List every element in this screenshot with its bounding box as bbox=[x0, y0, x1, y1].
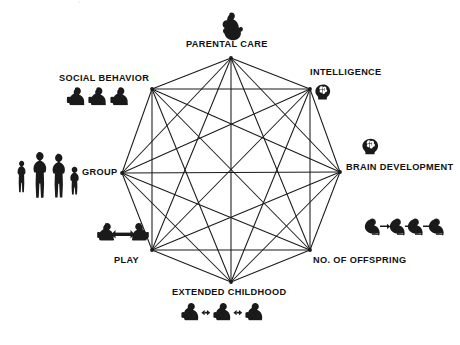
edge-brain-development--play bbox=[152, 172, 340, 250]
vertex-extended-childhood[interactable] bbox=[229, 280, 233, 284]
icon-head-with-brain-intelligence bbox=[315, 84, 331, 100]
icon-three-infants-with-arrows bbox=[364, 216, 452, 246]
edge-extended-childhood--social-behavior bbox=[152, 89, 231, 282]
edge-group bbox=[122, 58, 340, 282]
edge-parental-care--intelligence bbox=[231, 58, 310, 89]
edge-brain-development--group bbox=[122, 172, 340, 173]
vertex-intelligence[interactable] bbox=[308, 87, 312, 91]
icon-three-children-with-arrows bbox=[181, 302, 281, 334]
vertex-social-behavior[interactable] bbox=[150, 87, 154, 91]
node-label-extended-childhood: EXTENDED CHILDHOOD bbox=[172, 288, 287, 297]
edge-brain-development--no-of-offspring bbox=[310, 172, 340, 250]
edge-intelligence--extended-childhood bbox=[231, 89, 310, 282]
node-label-parental-care: PARENTAL CARE bbox=[186, 40, 268, 49]
icon-head-with-brain-development bbox=[362, 138, 379, 155]
diagram-canvas: | --- bbox=[0, 0, 460, 345]
edge-brain-development--extended-childhood bbox=[231, 172, 340, 282]
icon-two-children-playing bbox=[95, 222, 151, 254]
node-label-brain-development: BRAIN DEVELOPMENT bbox=[346, 163, 454, 172]
node-label-group: GROUP bbox=[82, 168, 117, 177]
node-label-intelligence: INTELLIGENCE bbox=[310, 68, 382, 77]
vertex-brain-development[interactable] bbox=[338, 170, 342, 174]
vertex-group[interactable] bbox=[120, 171, 124, 175]
edge-brain-development--social-behavior bbox=[152, 89, 340, 172]
node-label-social-behavior: SOCIAL BEHAVIOR bbox=[59, 74, 149, 83]
vertex-parental-care[interactable] bbox=[229, 56, 233, 60]
node-label-no-of-offspring: NO. OF OFFSPRING bbox=[313, 256, 406, 265]
edge-no-of-offspring--extended-childhood bbox=[231, 250, 310, 282]
icon-three-seated-figures bbox=[66, 86, 140, 116]
icon-adult-holding-infant bbox=[219, 12, 245, 42]
edge-parental-care--social-behavior bbox=[152, 58, 231, 89]
icon-family-group bbox=[12, 148, 82, 200]
edge-intelligence--brain-development bbox=[310, 89, 340, 172]
node-label-play: PLAY bbox=[114, 256, 139, 265]
edge-intelligence--group bbox=[122, 89, 310, 173]
edge-extended-childhood--play bbox=[152, 250, 231, 282]
vertex-no-of-offspring[interactable] bbox=[308, 248, 312, 252]
